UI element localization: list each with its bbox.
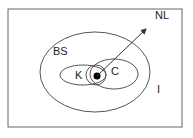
label-bs: BS <box>53 45 68 57</box>
label-nl: NL <box>155 9 169 21</box>
label-c: C <box>111 65 119 77</box>
arrow-to-nl <box>97 29 146 76</box>
label-i: I <box>157 83 160 95</box>
universe-rectangle <box>8 9 182 127</box>
label-k: K <box>75 69 83 81</box>
venn-diagram: NL BS K C I <box>0 0 193 138</box>
bs-ellipse <box>40 32 150 112</box>
